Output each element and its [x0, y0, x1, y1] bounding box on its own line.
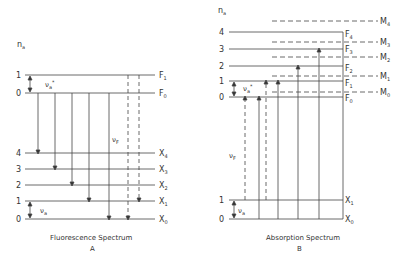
svg-text:X1: X1 [345, 196, 354, 206]
svg-text:1: 1 [16, 71, 21, 80]
diagram-canvas: na 10 43210 F1 F0 X4 X3 X2 X1 X0 νa* νF … [0, 0, 399, 260]
svg-text:νF: νF [229, 152, 236, 161]
panel-a-caption: Fluorescence Spectrum [50, 234, 132, 242]
svg-text:νa: νa [40, 207, 47, 216]
svg-text:M2: M2 [380, 53, 390, 63]
svg-text:0: 0 [16, 89, 21, 98]
svg-text:1: 1 [219, 196, 224, 205]
svg-text:F1: F1 [345, 79, 353, 89]
panel-b-caption: Absorption Spectrum [266, 234, 340, 242]
svg-text:2: 2 [219, 62, 224, 71]
svg-text:X1: X1 [159, 197, 168, 207]
svg-text:0: 0 [16, 215, 21, 224]
panel-a-letter: A [90, 245, 95, 253]
svg-text:M3: M3 [380, 38, 390, 48]
svg-text:X0: X0 [159, 215, 168, 225]
panel-a-axis-label: na [17, 40, 25, 50]
panel-b-axis-label: na [218, 6, 226, 16]
svg-text:F0: F0 [159, 89, 167, 99]
svg-text:M4: M4 [380, 17, 390, 27]
svg-text:4: 4 [219, 28, 224, 37]
svg-text:νa*: νa* [45, 79, 55, 90]
svg-text:F4: F4 [345, 30, 353, 40]
energy-level-diagram: na 10 43210 F1 F0 X4 X3 X2 X1 X0 νa* νF … [0, 0, 399, 260]
svg-text:X4: X4 [159, 149, 168, 159]
svg-text:0: 0 [219, 93, 224, 102]
svg-text:X2: X2 [159, 181, 168, 191]
svg-text:X3: X3 [159, 165, 168, 175]
svg-text:F2: F2 [345, 64, 353, 74]
svg-text:M0: M0 [380, 88, 390, 98]
svg-text:2: 2 [16, 181, 21, 190]
panel-b-letter: B [297, 245, 302, 253]
svg-text:1: 1 [16, 197, 21, 206]
svg-text:νa*: νa* [243, 83, 253, 94]
svg-text:4: 4 [16, 149, 21, 158]
svg-text:F1: F1 [159, 71, 167, 81]
svg-text:0: 0 [219, 215, 224, 224]
svg-text:F3: F3 [345, 45, 353, 55]
svg-text:M1: M1 [380, 72, 390, 82]
svg-text:F0: F0 [345, 94, 353, 104]
svg-text:νa: νa [238, 207, 245, 216]
svg-text:3: 3 [16, 165, 21, 174]
svg-text:3: 3 [219, 45, 224, 54]
svg-text:1: 1 [219, 77, 224, 86]
svg-text:X0: X0 [345, 215, 354, 225]
svg-text:νF: νF [112, 136, 119, 145]
